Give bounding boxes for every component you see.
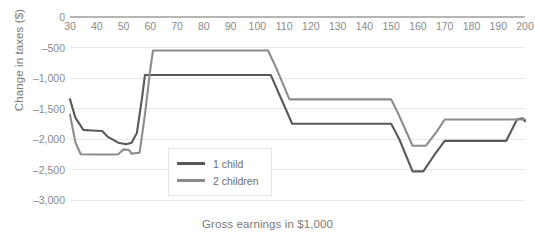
legend-swatch-icon [177,162,205,165]
series-layer [70,17,525,200]
x-tick-label: 140 [356,20,374,32]
x-tick-label: 160 [409,20,427,32]
x-tick-label: 110 [276,20,293,32]
y-tick-label: –1,500 [33,103,65,115]
series-line-1 [70,75,525,171]
x-tick-label: 150 [382,20,400,32]
legend-item-1: 1 child [177,155,259,172]
series-line-2 [70,51,525,155]
y-axis-title: Change in taxes ($) [13,0,25,145]
x-tick-label: 50 [118,20,130,32]
x-tick-label: 30 [64,20,76,32]
y-tick-label: –2,500 [33,164,65,176]
x-tick-label: 70 [171,20,183,32]
y-tick-label: –3,000 [33,194,65,206]
y-tick-label: –2,000 [33,133,65,145]
chart-legend: 1 child2 children [168,148,272,196]
x-tick-label: 40 [91,20,103,32]
y-tick-label: –1,000 [33,72,65,84]
legend-swatch-icon [177,179,205,182]
legend-label: 1 child [213,158,243,170]
y-tick-label: –500 [42,42,65,54]
x-tick-label: 60 [144,20,156,32]
x-tick-label: 90 [225,20,237,32]
x-tick-label: 170 [436,20,454,32]
legend-label: 2 children [213,175,259,187]
x-axis-title: Gross earnings in $1,000 [0,218,535,230]
x-tick-label: 180 [463,20,481,32]
x-tick-label: 200 [516,20,534,32]
plot-area: 0–500–1,000–1,500–2,000–2,500–3,000 3040… [70,17,525,200]
x-tick-label: 190 [489,20,507,32]
x-tick-label: 120 [302,20,320,32]
x-tick-label: 80 [198,20,210,32]
x-tick-label: 100 [249,20,267,32]
legend-item-2: 2 children [177,172,259,189]
x-tick-label: 130 [329,20,347,32]
chart-figure: Change in taxes ($) 0–500–1,000–1,500–2,… [0,0,535,242]
